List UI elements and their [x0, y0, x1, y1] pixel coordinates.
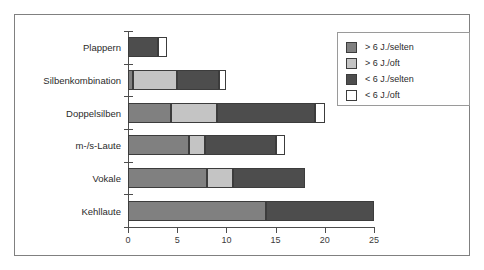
x-axis-tick-label: 15	[271, 235, 281, 245]
category-label: Doppelsilben	[66, 107, 121, 118]
y-axis-tick	[124, 31, 133, 32]
legend-entry: > 6 J./selten	[346, 40, 414, 54]
bar-segment	[219, 70, 227, 90]
x-axis-tick	[325, 227, 326, 233]
bar-segment	[128, 135, 189, 155]
bar-segment	[207, 168, 234, 188]
x-axis-tick	[177, 227, 178, 233]
legend-label: > 6 J./oft	[365, 58, 400, 68]
bar-segment	[276, 135, 286, 155]
bar-segment	[133, 70, 177, 90]
bar-row	[128, 135, 374, 155]
category-label: Plappern	[83, 42, 121, 53]
bar-segment	[177, 70, 218, 90]
x-axis-tick	[374, 227, 375, 233]
x-axis-tick-label: 0	[125, 235, 130, 245]
bar-segment	[128, 201, 266, 221]
x-axis-tick-label: 25	[369, 235, 379, 245]
category-label: Vokale	[92, 173, 121, 184]
category-label: Kehllaute	[81, 205, 121, 216]
bar-row	[128, 201, 374, 221]
x-axis-line	[128, 227, 375, 228]
y-axis-tick	[124, 162, 133, 163]
legend-swatch-icon	[346, 42, 357, 53]
bar-segment	[171, 103, 216, 123]
bar-segment	[217, 103, 315, 123]
x-axis-tick-label: 10	[221, 235, 231, 245]
legend-swatch-icon	[346, 90, 357, 101]
y-axis-tick	[124, 64, 133, 65]
legend-entry: < 6 J./selten	[346, 72, 414, 86]
category-label: m-/s-Laute	[76, 140, 121, 151]
legend-swatch-icon	[346, 58, 357, 69]
legend-label: < 6 J./selten	[365, 74, 414, 84]
bar-segment	[315, 103, 325, 123]
x-axis-tick	[226, 227, 227, 233]
bar-segment	[266, 201, 374, 221]
x-axis-tick-label: 5	[175, 235, 180, 245]
category-label: Silbenkombination	[43, 75, 121, 86]
y-axis-tick	[124, 96, 133, 97]
x-axis-tick-label: 20	[320, 235, 330, 245]
bar-segment	[205, 135, 276, 155]
bar-segment	[189, 135, 205, 155]
bar-segment	[128, 37, 158, 57]
bar-segment	[128, 168, 207, 188]
chart-legend: > 6 J./selten> 6 J./oft< 6 J./selten< 6 …	[337, 32, 470, 106]
bar-segment	[158, 37, 168, 57]
y-axis-tick	[124, 194, 133, 195]
bar-segment	[128, 103, 171, 123]
legend-label: < 6 J./oft	[365, 90, 400, 100]
legend-swatch-icon	[346, 74, 357, 85]
x-axis-tick	[276, 227, 277, 233]
bar-row	[128, 168, 374, 188]
chart-frame: 0510152025 PlappernSilbenkombinationDopp…	[14, 14, 470, 256]
y-axis-tick	[124, 129, 133, 130]
bar-segment	[233, 168, 305, 188]
x-axis-tick	[128, 227, 129, 233]
legend-entry: > 6 J./oft	[346, 56, 400, 70]
legend-entry: < 6 J./oft	[346, 88, 400, 102]
legend-label: > 6 J./selten	[365, 42, 414, 52]
